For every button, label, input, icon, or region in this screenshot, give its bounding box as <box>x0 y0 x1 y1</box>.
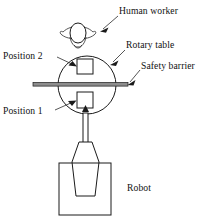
leader-human-worker-line <box>103 16 118 29</box>
label-position-2: Position 2 <box>3 50 43 61</box>
human-worker-head <box>70 23 86 43</box>
label-position-1: Position 1 <box>3 105 43 116</box>
leader-rotary-table-arrow-icon <box>110 61 119 67</box>
label-robot: Robot <box>127 182 151 193</box>
leader-human-worker <box>100 16 118 33</box>
position-1-fixture <box>77 92 93 108</box>
leader-rotary-table-line <box>113 50 125 62</box>
safety-barrier-bar <box>33 83 128 87</box>
leader-safety-barrier-line <box>130 70 140 82</box>
label-human-worker: Human worker <box>119 5 179 16</box>
position-2-fixture <box>77 59 93 74</box>
figure-root: Human worker Rotary table Safety barrier… <box>0 0 208 216</box>
robot-arm-shaft <box>83 113 88 143</box>
robot-figure <box>59 105 111 215</box>
leader-safety-barrier-arrow-icon <box>128 80 136 86</box>
human-worker-neck <box>74 45 82 48</box>
label-safety-barrier: Safety barrier <box>141 60 196 71</box>
diagram-canvas: Human worker Rotary table Safety barrier… <box>0 0 208 216</box>
leader-safety-barrier <box>128 70 141 86</box>
robot-body <box>72 142 99 196</box>
human-worker-figure <box>60 23 96 48</box>
label-rotary-table: Rotary table <box>126 39 174 50</box>
leader-rotary-table <box>110 50 125 66</box>
